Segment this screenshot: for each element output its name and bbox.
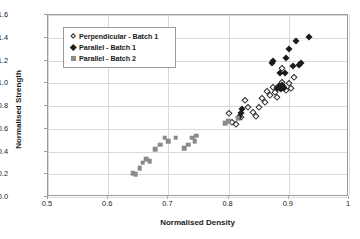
- data-point: [226, 119, 231, 124]
- data-point: [306, 34, 313, 41]
- data-point: [252, 112, 258, 118]
- data-point: [242, 96, 248, 102]
- x-axis-tick-mark: [348, 196, 349, 199]
- data-point: [166, 139, 171, 144]
- data-point: [281, 69, 288, 76]
- y-axis-tick-label: 1.4: [0, 32, 8, 41]
- gridline-horizontal: [48, 83, 347, 84]
- data-point: [288, 85, 294, 91]
- y-axis-tick-label: 0.6: [0, 123, 8, 132]
- data-point: [233, 120, 239, 126]
- x-axis-tick-label: 0.9: [268, 199, 308, 208]
- data-point: [290, 74, 296, 80]
- y-axis-tick-label: 1.2: [0, 55, 8, 64]
- x-axis-tick-label: 0.6: [87, 199, 127, 208]
- x-axis-tick-label: 0.7: [147, 199, 187, 208]
- gridline-horizontal: [48, 106, 347, 107]
- scatter-chart: Normalised Strength Normalised Density 0…: [0, 0, 360, 239]
- y-axis-title: Normalised Strength: [14, 35, 23, 185]
- x-axis-title: Normalised Density: [47, 218, 348, 227]
- y-axis-tick-label: 1.6: [0, 10, 8, 19]
- legend-item-label: Parallel - Batch 2: [79, 54, 136, 63]
- gridline-vertical: [349, 15, 350, 195]
- data-point: [137, 166, 142, 171]
- data-point: [134, 172, 139, 177]
- data-point: [225, 110, 231, 116]
- data-point: [173, 136, 178, 141]
- gridline-horizontal: [48, 197, 347, 198]
- x-axis-tick-label: 1: [328, 199, 360, 208]
- gridline-horizontal: [48, 152, 347, 153]
- legend-marker-icon: [68, 56, 79, 60]
- x-axis-tick-label: 0.5: [27, 199, 67, 208]
- legend-item-2: Parallel - Batch 2: [68, 53, 171, 64]
- gridline-horizontal: [48, 129, 347, 130]
- y-axis-tick-label: 1.0: [0, 78, 8, 87]
- y-axis-tick-label: 0.2: [0, 169, 8, 178]
- y-axis-tick-label: 0.8: [0, 101, 8, 110]
- legend-item-0: Perpendicular - Batch 1: [68, 31, 171, 42]
- data-point: [235, 116, 240, 121]
- data-point: [286, 46, 293, 53]
- data-point: [186, 142, 191, 147]
- legend: Perpendicular - Batch 1Parallel - Batch …: [63, 27, 176, 68]
- gridline-horizontal: [48, 15, 347, 16]
- x-axis-tick-label: 0.8: [208, 199, 248, 208]
- legend-item-label: Perpendicular - Batch 1: [79, 32, 158, 41]
- data-point: [262, 99, 268, 105]
- data-point: [256, 103, 262, 109]
- legend-marker-icon: [68, 34, 79, 38]
- data-point: [194, 133, 199, 138]
- data-point: [158, 142, 163, 147]
- gridline-vertical: [48, 15, 49, 195]
- legend-item-1: Parallel - Batch 1: [68, 42, 171, 53]
- legend-item-label: Parallel - Batch 1: [79, 43, 136, 52]
- y-axis-tick-label: 0.0: [0, 192, 8, 201]
- data-point: [274, 94, 280, 100]
- gridline-vertical: [289, 15, 290, 195]
- gridline-vertical: [229, 15, 230, 195]
- y-axis-tick-label: 0.4: [0, 146, 8, 155]
- data-point: [153, 147, 158, 152]
- data-point: [147, 159, 152, 164]
- legend-marker-icon: [68, 45, 79, 50]
- data-point: [193, 139, 198, 144]
- gridline-horizontal: [48, 174, 347, 175]
